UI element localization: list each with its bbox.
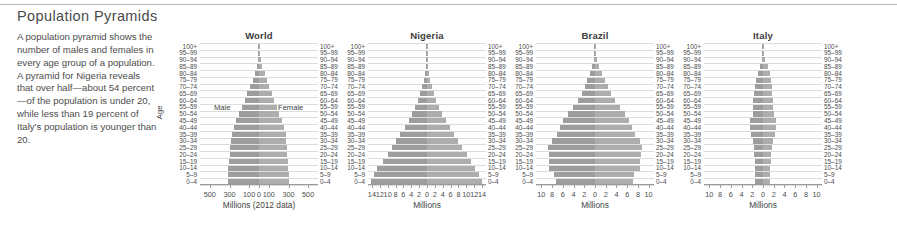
x-tick-label: 2 xyxy=(582,190,586,199)
x-tick xyxy=(458,185,459,188)
x-tick xyxy=(595,185,596,188)
bar-female xyxy=(595,132,635,137)
x-tick-label: 10 xyxy=(813,190,821,199)
bar-male xyxy=(245,98,259,103)
bar-female xyxy=(259,51,260,56)
x-tick-label: 6 xyxy=(625,190,629,199)
bar-male xyxy=(755,84,763,89)
x-tick-label: 6 xyxy=(729,190,733,199)
plot-area: 141210864202468101214Millions xyxy=(368,43,486,185)
x-tick xyxy=(541,185,542,188)
x-tick-label: 8 xyxy=(636,190,640,199)
age-label: 0–4 xyxy=(824,179,835,185)
bar-female xyxy=(595,145,642,150)
bar-male xyxy=(554,172,595,177)
x-tick xyxy=(795,185,796,188)
age-label-column-left: 100+95–9990–9485–8980–8475–7970–7465–696… xyxy=(510,43,533,185)
bar-female xyxy=(427,44,428,49)
bar-female xyxy=(595,84,608,89)
y-axis-title: Age xyxy=(155,105,164,119)
bar-male xyxy=(755,179,763,184)
bar-male xyxy=(418,98,427,103)
bar-male xyxy=(405,125,427,130)
bar-male xyxy=(756,78,763,83)
plot-area: 1086420246810Millions xyxy=(536,43,654,185)
chart-title: Nigeria xyxy=(342,30,512,41)
bar-male xyxy=(755,166,763,171)
bar-male xyxy=(549,166,595,171)
x-axis-title: Millions (2012 data) xyxy=(200,200,318,210)
x-tick-label: 0 xyxy=(257,190,261,199)
bar-female xyxy=(763,138,773,143)
bar-female xyxy=(763,145,772,150)
bar-female xyxy=(427,57,428,62)
x-tick xyxy=(574,185,575,188)
bar-female xyxy=(595,57,597,62)
age-label: 0–4 xyxy=(488,179,499,185)
bar-male xyxy=(754,91,763,96)
bar-female xyxy=(427,64,428,69)
x-tick-label: 4 xyxy=(572,190,576,199)
intro-column: Population Pyramids A population pyramid… xyxy=(17,8,157,147)
plot-area: 5003001000100300500Millions (2012 data)M… xyxy=(200,43,318,185)
bar-female xyxy=(763,84,772,89)
age-label-column-left: 100+95–9990–9485–8980–8475–7970–7465–696… xyxy=(678,43,701,185)
bar-female xyxy=(763,105,773,110)
page-title: Population Pyramids xyxy=(17,8,157,24)
bar-male xyxy=(563,118,595,123)
x-tick-label: 0 xyxy=(425,190,429,199)
x-tick-label: 6 xyxy=(793,190,797,199)
bar-female xyxy=(763,172,770,177)
bar-male xyxy=(549,152,595,157)
bar-female xyxy=(763,159,771,164)
x-tick-label: 6 xyxy=(401,190,405,199)
bar-female xyxy=(427,125,450,130)
bar-female xyxy=(427,111,442,116)
bar-female xyxy=(595,71,602,76)
x-tick xyxy=(638,185,639,188)
bar-female xyxy=(427,98,436,103)
population-pyramids-figure: Population Pyramids A population pyramid… xyxy=(0,0,897,236)
bar-male xyxy=(234,125,259,130)
x-tick xyxy=(584,185,585,188)
x-tick xyxy=(372,185,373,188)
x-tick-label: 0 xyxy=(761,190,765,199)
x-axis-title: Millions xyxy=(704,200,822,210)
x-tick xyxy=(817,185,818,188)
bar-male xyxy=(753,98,763,103)
x-tick-label: 4 xyxy=(441,190,445,199)
bar-female xyxy=(427,91,434,96)
bar-female xyxy=(595,44,596,49)
bar-female xyxy=(763,179,770,184)
x-tick-label: 100 xyxy=(263,190,275,199)
bar-female xyxy=(763,98,773,103)
bar-male xyxy=(557,132,595,137)
bar-female xyxy=(595,91,611,96)
bar-female xyxy=(259,145,287,150)
x-tick xyxy=(649,185,650,188)
x-tick-label: 4 xyxy=(782,190,786,199)
bar-female xyxy=(427,172,479,177)
bar-female xyxy=(259,159,288,164)
bar-male xyxy=(587,78,595,83)
x-tick-label: 10 xyxy=(537,190,545,199)
x-tick-label: 8 xyxy=(718,190,722,199)
x-tick-label: 8 xyxy=(804,190,808,199)
x-tick xyxy=(742,185,743,188)
age-label: 0–4 xyxy=(522,179,533,185)
bar-female xyxy=(763,51,764,56)
bar-female xyxy=(259,132,286,137)
bar-female xyxy=(259,179,289,184)
bar-female xyxy=(259,172,289,177)
x-tick-label: 2 xyxy=(417,190,421,199)
x-tick-label: 2 xyxy=(604,190,608,199)
bar-male xyxy=(552,138,595,143)
x-tick xyxy=(627,185,628,188)
age-label-column-left: 100+95–9990–9485–8980–8475–7970–7465–696… xyxy=(342,43,365,185)
bar-female xyxy=(595,138,640,143)
age-label: 0–4 xyxy=(320,179,331,185)
bar-female xyxy=(763,91,772,96)
male-label: Male xyxy=(214,103,230,112)
x-tick xyxy=(210,185,211,188)
bar-female xyxy=(763,166,770,171)
